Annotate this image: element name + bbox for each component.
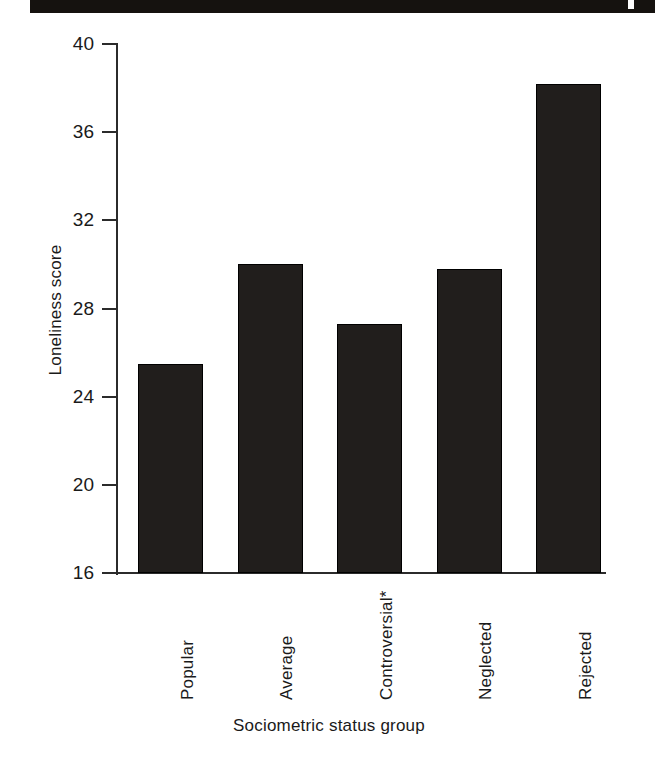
y-axis-tick-label: 40	[48, 34, 94, 53]
bar-chart-figure: Loneliness score 16202428323640 PopularA…	[0, 0, 658, 767]
x-axis-category-label: Controversial*	[378, 590, 395, 700]
y-axis-tick-label-wrap: 16	[42, 563, 94, 582]
y-axis-tick	[102, 131, 118, 133]
y-axis-tick	[102, 572, 118, 574]
y-axis-tick-label-wrap: 36	[42, 122, 94, 141]
y-axis-tick	[102, 43, 118, 45]
x-axis-category-label: Rejected	[577, 631, 594, 700]
bar	[337, 324, 402, 573]
y-axis-tick	[102, 396, 118, 398]
y-axis-tick-label-wrap: 40	[42, 34, 94, 53]
y-axis-tick-label: 24	[48, 387, 94, 406]
y-axis-tick-label-wrap: 24	[42, 387, 94, 406]
x-axis-title: Sociometric status group	[0, 716, 658, 736]
y-axis-tick	[102, 308, 118, 310]
y-axis-tick	[102, 484, 118, 486]
y-axis-tick-label: 20	[48, 475, 94, 494]
y-axis-tick-label: 28	[48, 299, 94, 318]
bar	[437, 269, 502, 573]
y-axis-tick	[102, 219, 118, 221]
y-axis-tick-label: 32	[48, 210, 94, 229]
y-axis-line	[116, 44, 118, 575]
y-axis-tick-label-wrap: 20	[42, 475, 94, 494]
bar	[536, 84, 601, 573]
y-axis-tick-label: 16	[48, 563, 94, 582]
y-axis-tick-label-wrap: 28	[42, 299, 94, 318]
x-axis-category-label: Average	[278, 636, 295, 700]
bar	[138, 364, 203, 573]
y-axis-tick-label-wrap: 32	[42, 210, 94, 229]
y-axis-tick-label: 36	[48, 122, 94, 141]
bar	[238, 264, 303, 573]
x-axis-category-label: Popular	[179, 640, 196, 700]
x-axis-category-label: Neglected	[477, 622, 494, 700]
